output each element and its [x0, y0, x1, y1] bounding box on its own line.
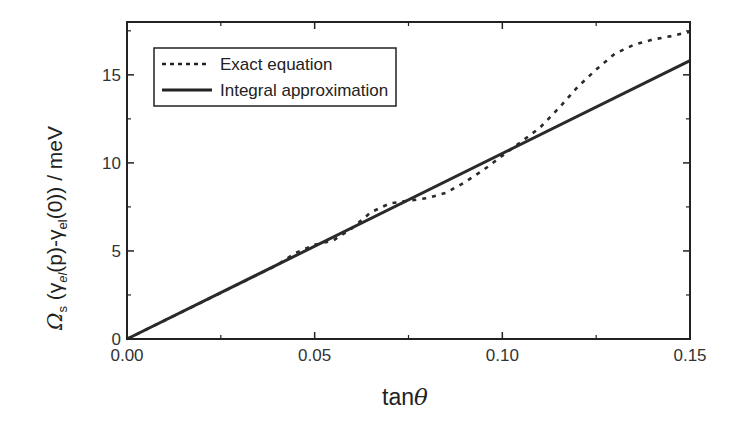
chart: 0.000.050.100.15051015 Exact equation In… [0, 0, 739, 422]
y-axis-label: Ωs (γel(p)-γel(0)) / meV [43, 126, 70, 331]
legend: Exact equation Integral approximation [154, 48, 396, 106]
x-tick-label: 0.05 [298, 346, 331, 365]
x-tick-label: 0.10 [486, 346, 519, 365]
x-axis-label: tanθ [382, 384, 428, 410]
y-tick-label: 5 [112, 242, 121, 261]
legend-label-integral: Integral approximation [220, 81, 388, 100]
y-tick-label: 15 [102, 66, 121, 85]
legend-label-exact: Exact equation [220, 55, 332, 74]
tick-labels: 0.000.050.100.15051015 [102, 66, 706, 365]
y-tick-label: 10 [102, 154, 121, 173]
x-tick-label: 0.15 [673, 346, 706, 365]
y-tick-label: 0 [112, 330, 121, 349]
